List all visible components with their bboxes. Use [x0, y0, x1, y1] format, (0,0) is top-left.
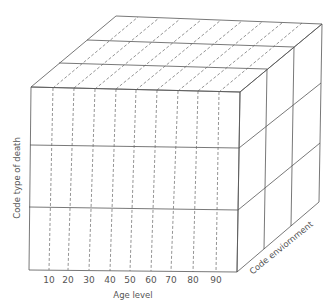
age-tick-labels: 10 20 30 40 50 60 70 80 90 [43, 275, 222, 285]
tick-20: 20 [62, 275, 74, 285]
tick-50: 50 [124, 275, 136, 285]
top-face [31, 16, 322, 92]
tick-30: 30 [83, 275, 95, 285]
tick-90: 90 [210, 275, 222, 285]
tick-80: 80 [187, 275, 199, 285]
tick-40: 40 [104, 275, 116, 285]
tick-70: 70 [165, 275, 177, 285]
tick-10: 10 [43, 275, 55, 285]
x-axis-label: Age level [113, 290, 152, 300]
side-face [237, 24, 322, 272]
tick-60: 60 [145, 275, 157, 285]
front-face [29, 87, 240, 272]
y-axis-label: Code type of death [12, 137, 22, 219]
cube-diagram: 10 20 30 40 50 60 70 80 90 Age level Cod… [0, 0, 336, 308]
z-axis-label: Code enviornment [247, 219, 315, 277]
